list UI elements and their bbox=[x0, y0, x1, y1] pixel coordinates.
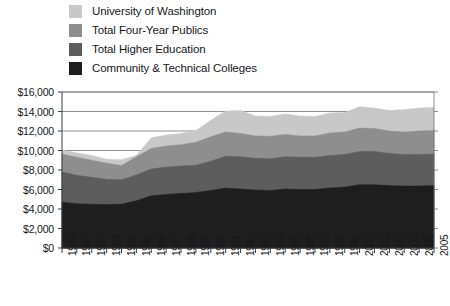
x-axis-tick-label: 1992 bbox=[245, 235, 256, 256]
x-axis-tick-label: 1982 bbox=[96, 235, 107, 256]
x-axis-tick-label: 1988 bbox=[186, 235, 197, 256]
x-axis-tick-label: 1983 bbox=[111, 235, 122, 256]
x-axis-tick-label: 1998 bbox=[334, 235, 345, 256]
y-axis-tick-label: $8,000 bbox=[0, 164, 54, 176]
x-axis-tick-label: 2005 bbox=[439, 235, 450, 256]
x-axis-tick-label: 1996 bbox=[305, 235, 316, 256]
x-axis-tick-label: 1980 bbox=[67, 235, 78, 256]
x-axis-tick-label: 1989 bbox=[200, 235, 211, 256]
x-axis-tick-label: 1990 bbox=[215, 235, 226, 256]
x-axis-tick-label: 1999 bbox=[349, 235, 360, 256]
x-axis-tick-label: 2003 bbox=[409, 235, 420, 256]
x-axis-tick-label: 2004 bbox=[424, 235, 435, 256]
x-axis-tick-label: 1993 bbox=[260, 235, 271, 256]
y-axis-tick-label: $16,000 bbox=[0, 86, 54, 98]
x-axis-tick-label: 1987 bbox=[171, 235, 182, 256]
x-axis-tick-label: 1985 bbox=[141, 235, 152, 256]
y-axis-tick-label: $0 bbox=[0, 242, 54, 254]
x-axis-tick-label: 1995 bbox=[290, 235, 301, 256]
x-axis-tick-label: 2002 bbox=[394, 235, 405, 256]
y-axis-tick-label: $14,000 bbox=[0, 106, 54, 118]
chart-footnote bbox=[40, 296, 440, 305]
x-axis-tick-label: 2001 bbox=[379, 235, 390, 256]
y-axis-tick-label: $12,000 bbox=[0, 125, 54, 137]
y-axis-tick-label: $6,000 bbox=[0, 184, 54, 196]
y-axis-tick-label: $2,000 bbox=[0, 223, 54, 235]
x-axis-tick-label: 1986 bbox=[156, 235, 167, 256]
y-axis-tick-label: $4,000 bbox=[0, 203, 54, 215]
x-axis-tick-label: 2000 bbox=[364, 235, 375, 256]
x-axis-tick-label: 1981 bbox=[81, 235, 92, 256]
y-axis-tick-label: $10,000 bbox=[0, 145, 54, 157]
x-axis-tick-label: 1994 bbox=[275, 235, 286, 256]
x-axis-tick-label: 1984 bbox=[126, 235, 137, 256]
x-axis-tick-label: 1997 bbox=[319, 235, 330, 256]
x-axis-tick-label: 1991 bbox=[230, 235, 241, 256]
